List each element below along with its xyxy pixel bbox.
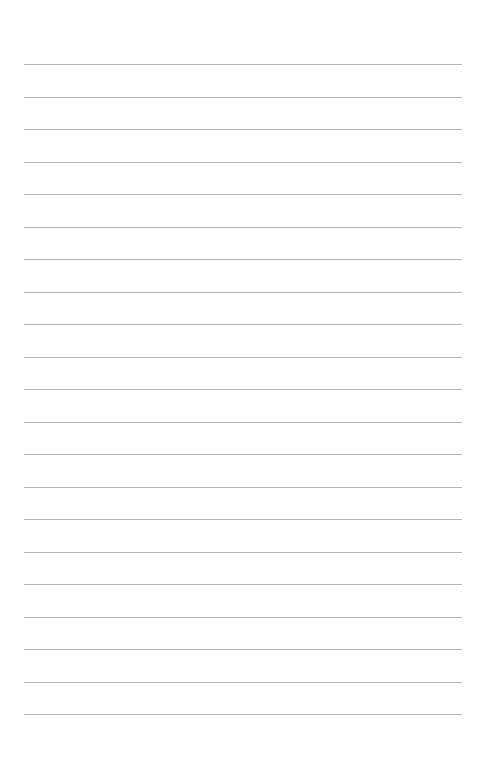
- lined-paper-page: [0, 0, 483, 762]
- ruled-line: [24, 552, 462, 553]
- ruled-line: [24, 129, 462, 130]
- ruled-line: [24, 259, 462, 260]
- ruled-line: [24, 64, 462, 65]
- ruled-line: [24, 162, 462, 163]
- ruled-line: [24, 519, 462, 520]
- ruled-line: [24, 682, 462, 683]
- ruled-line: [24, 227, 462, 228]
- ruled-line: [24, 454, 462, 455]
- ruled-line: [24, 487, 462, 488]
- ruled-line: [24, 584, 462, 585]
- ruled-line: [24, 649, 462, 650]
- ruled-line: [24, 389, 462, 390]
- ruled-line: [24, 97, 462, 98]
- ruled-line: [24, 357, 462, 358]
- ruled-line: [24, 617, 462, 618]
- ruled-line: [24, 292, 462, 293]
- ruled-line: [24, 324, 462, 325]
- ruled-line: [24, 194, 462, 195]
- ruled-line: [24, 422, 462, 423]
- ruled-line: [24, 714, 462, 715]
